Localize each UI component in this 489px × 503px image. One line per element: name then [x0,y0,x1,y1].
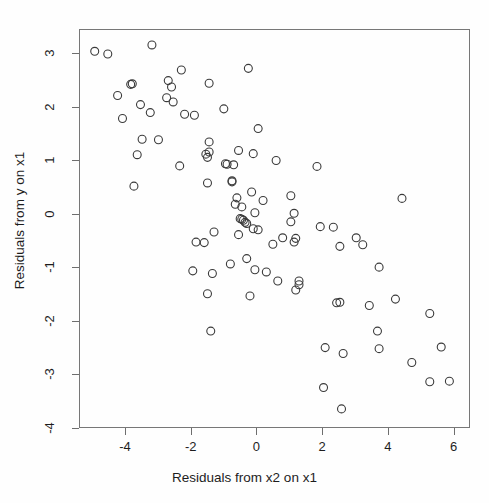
plot-area [79,29,470,428]
data-point [189,267,197,275]
x-tick-label: 0 [241,440,271,454]
data-point [104,50,112,58]
x-tick-mark [454,428,455,435]
data-point [177,66,185,74]
data-point [262,268,270,276]
data-point [154,136,162,144]
data-point [200,239,208,247]
y-axis-label-container: Residuals from y on x1 [8,0,32,440]
data-point [246,292,254,300]
data-point [373,327,381,335]
y-tick-label: 2 [43,92,57,122]
data-point [190,111,198,119]
data-point [338,405,346,413]
y-tick-label: 1 [43,145,57,175]
data-point [398,194,406,202]
x-tick-label: 6 [439,440,469,454]
data-point [204,290,212,298]
data-point [235,231,243,239]
y-tick-mark [72,214,79,215]
data-point [235,146,243,154]
data-point [254,125,262,133]
y-tick-label: -2 [43,306,57,336]
data-point [445,377,453,385]
data-point [254,226,262,234]
data-point [426,310,434,318]
data-point [119,114,127,122]
data-point [138,135,146,143]
data-point [114,92,122,100]
data-point [316,223,324,231]
data-point [146,109,154,117]
y-tick-label: 0 [43,199,57,229]
data-point [243,255,251,263]
data-point [375,345,383,353]
y-tick-mark [72,160,79,161]
data-point [244,64,252,72]
data-point [320,384,328,392]
y-tick-mark [72,53,79,54]
data-point [279,234,287,242]
data-point [205,79,213,87]
scatter-plot-figure: -4-20246 3210-1-2-3-4 Residuals from x2 … [0,0,489,503]
data-point [148,41,156,49]
data-point [91,47,99,55]
x-tick-mark [256,428,257,435]
data-point [204,179,212,187]
data-point [181,110,189,118]
data-point [375,263,383,271]
data-point [272,157,280,165]
data-point [192,238,200,246]
data-point [287,218,295,226]
data-point [259,197,267,205]
data-point [391,295,399,303]
x-tick-label: 2 [307,440,337,454]
data-point [210,228,218,236]
y-tick-label: -3 [43,359,57,389]
x-tick-label: -2 [176,440,206,454]
data-point [248,188,256,196]
y-tick-mark [72,428,79,429]
y-axis-label: Residuals from y on x1 [13,151,28,288]
y-tick-mark [72,107,79,108]
y-tick-mark [72,374,79,375]
data-point [130,182,138,190]
data-point [321,344,329,352]
data-point [133,151,141,159]
data-point [251,209,259,217]
data-point [352,234,360,242]
x-tick-mark [125,428,126,435]
data-point [169,98,177,106]
y-tick-label: -1 [43,252,57,282]
y-tick-mark [72,321,79,322]
data-point [313,162,321,170]
data-point [359,241,367,249]
data-point [226,260,234,268]
data-point [207,327,215,335]
data-point [249,150,257,158]
x-axis-label: Residuals from x2 on x1 [0,470,489,485]
data-point [365,302,373,310]
data-point [287,192,295,200]
data-point [329,223,337,231]
data-point [220,105,228,113]
y-tick-label: -4 [43,413,57,443]
data-point [269,240,277,248]
y-tick-mark [72,267,79,268]
data-point [290,209,298,217]
data-point [176,162,184,170]
y-tick-label: 3 [43,38,57,68]
data-point [205,138,213,146]
data-point [168,83,176,91]
data-point [437,343,445,351]
data-point [426,378,434,386]
data-point [238,203,246,211]
data-point [274,277,282,285]
x-tick-label: 4 [373,440,403,454]
data-point [336,242,344,250]
data-point [339,349,347,357]
data-points-layer [80,30,469,427]
data-point [208,270,216,278]
x-tick-label: -4 [110,440,140,454]
data-point [408,359,416,367]
